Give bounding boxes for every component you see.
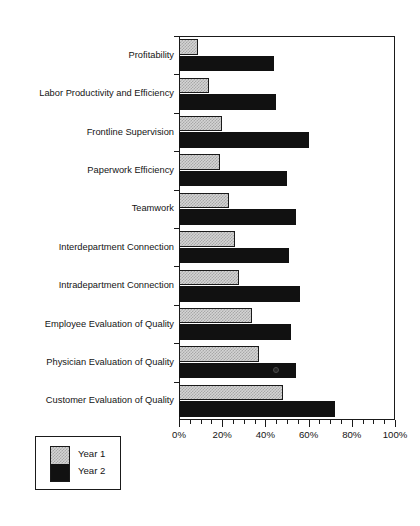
bar-year-2 <box>179 94 276 110</box>
value-axis-ticks <box>179 420 395 427</box>
category-label: Labor Productivity and Efficiency <box>0 88 174 99</box>
value-tick-minor <box>211 420 212 424</box>
bar-year-2 <box>179 209 296 225</box>
category-tick <box>174 151 179 152</box>
category-tick <box>174 36 179 37</box>
category-tick <box>174 305 179 306</box>
bar-year-1 <box>179 385 283 401</box>
category-label: Customer Evaluation of Quality <box>0 395 174 406</box>
bar-group <box>179 113 395 151</box>
bar-group <box>179 151 395 189</box>
bar-year-1 <box>179 78 209 94</box>
value-axis-label: 100% <box>383 429 408 441</box>
category-label: Interdepartment Connection <box>0 242 174 253</box>
bar-year-1 <box>179 308 252 324</box>
legend: Year 1 Year 2 <box>35 436 121 490</box>
value-tick-minor <box>287 420 288 424</box>
bar-year-2 <box>179 248 289 264</box>
bar-year-2 <box>179 56 274 72</box>
value-tick-minor <box>341 420 342 424</box>
value-axis-label: 60% <box>299 429 318 441</box>
value-tick-major <box>222 420 223 427</box>
bar-group <box>179 343 395 381</box>
value-axis-label: 20% <box>213 429 232 441</box>
value-tick-major <box>309 420 310 427</box>
value-tick-major <box>352 420 353 427</box>
value-tick-major <box>265 420 266 427</box>
bar-groups <box>179 36 395 420</box>
value-tick-major <box>179 420 180 427</box>
value-tick-minor <box>255 420 256 424</box>
category-tick <box>174 382 179 383</box>
bar-group <box>179 228 395 266</box>
bar-year-1 <box>179 116 222 132</box>
value-tick-major <box>395 420 396 427</box>
category-tick <box>174 228 179 229</box>
bar-year-2 <box>179 324 291 340</box>
bar-year-2 <box>179 171 287 187</box>
bar-year-1 <box>179 346 259 362</box>
bar-year-2 <box>179 286 300 302</box>
bar-group <box>179 36 395 74</box>
category-tick <box>174 343 179 344</box>
bar-group <box>179 74 395 112</box>
value-axis-label: 80% <box>342 429 361 441</box>
value-tick-minor <box>190 420 191 424</box>
legend-swatch-group <box>50 446 70 482</box>
scan-artifact-speck <box>273 367 279 373</box>
category-label: Employee Evaluation of Quality <box>0 319 174 330</box>
legend-swatch-year-2 <box>51 464 69 481</box>
value-axis-label: 0% <box>172 429 186 441</box>
value-tick-minor <box>373 420 374 424</box>
bar-group <box>179 266 395 304</box>
bar-year-2 <box>179 401 335 417</box>
value-tick-minor <box>276 420 277 424</box>
bar-year-1 <box>179 154 220 170</box>
bar-group <box>179 190 395 228</box>
category-label: Teamwork <box>0 203 174 214</box>
legend-label-year-2: Year 2 <box>78 465 105 477</box>
category-label: Profitability <box>0 50 174 61</box>
value-tick-minor <box>330 420 331 424</box>
bar-year-1 <box>179 193 229 209</box>
category-tick <box>174 190 179 191</box>
bar-year-2 <box>179 132 309 148</box>
bar-year-1 <box>179 39 198 55</box>
value-tick-minor <box>384 420 385 424</box>
value-tick-minor <box>233 420 234 424</box>
horizontal-bar-chart: ProfitabilityLabor Productivity and Effi… <box>0 0 420 526</box>
value-tick-minor <box>319 420 320 424</box>
legend-swatch-year-1 <box>51 447 69 464</box>
category-axis-labels: ProfitabilityLabor Productivity and Effi… <box>0 36 174 420</box>
legend-label-year-1: Year 1 <box>78 448 105 460</box>
value-tick-minor <box>363 420 364 424</box>
bar-group <box>179 382 395 420</box>
category-label: Intradepartment Connection <box>0 280 174 291</box>
category-tick <box>174 266 179 267</box>
category-label: Frontline Supervision <box>0 127 174 138</box>
bar-year-1 <box>179 270 239 286</box>
category-tick <box>174 113 179 114</box>
category-tick <box>174 74 179 75</box>
category-label: Physician Evaluation of Quality <box>0 357 174 368</box>
category-label: Paperwork Efficiency <box>0 165 174 176</box>
value-axis-label: 40% <box>256 429 275 441</box>
bar-year-1 <box>179 231 235 247</box>
value-tick-minor <box>244 420 245 424</box>
value-tick-minor <box>201 420 202 424</box>
value-tick-minor <box>298 420 299 424</box>
bar-group <box>179 305 395 343</box>
